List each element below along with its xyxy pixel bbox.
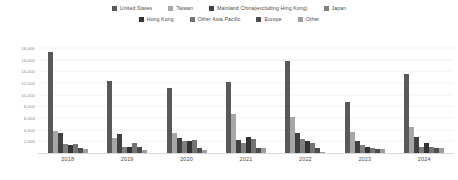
x-axis-tick-label: 2023 [358, 156, 371, 162]
y-axis-tick-label: 6,000 [24, 116, 35, 121]
bar-chart: United StatesTaiwanMainland China(exclud… [0, 0, 458, 180]
bar-group [226, 48, 266, 153]
legend-swatch-icon [256, 17, 261, 22]
legend-item[interactable]: Europe [256, 17, 281, 22]
bar-group [345, 48, 385, 153]
chart-legend: United StatesTaiwanMainland China(exclud… [0, 6, 458, 28]
legend-item[interactable]: Other [298, 17, 319, 22]
legend-item[interactable]: Hong Kong [139, 17, 174, 22]
legend-swatch-icon [324, 6, 329, 11]
x-axis-tick-label: 2022 [299, 156, 312, 162]
x-axis-tick-label: 2020 [180, 156, 193, 162]
legend-swatch-icon [298, 17, 303, 22]
bars-area [38, 48, 454, 153]
x-axis-tick-label: 2021 [240, 156, 253, 162]
bar[interactable] [202, 150, 207, 153]
bar[interactable] [142, 150, 147, 154]
y-axis-tick-label: 14,000 [21, 69, 35, 74]
legend-swatch-icon [112, 6, 117, 11]
legend-item[interactable]: Japan [324, 6, 347, 11]
bar[interactable] [83, 149, 88, 153]
y-axis-tick-label: 16,000 [21, 57, 35, 62]
legend-row-top: United StatesTaiwanMainland China(exclud… [0, 6, 458, 11]
legend-swatch-icon [139, 17, 144, 22]
y-axis-tick-label: 18,000 [21, 46, 35, 51]
legend-swatch-icon [209, 6, 214, 11]
legend-label: Other [306, 17, 319, 22]
bar[interactable] [320, 152, 325, 153]
legend-row-bottom: Hong KongOther Asia PacificEuropeOther [0, 17, 458, 22]
x-axis-tick-label: 2018 [61, 156, 74, 162]
x-axis-tick-label: 2019 [121, 156, 134, 162]
bar-group [107, 48, 147, 153]
legend-label: Mainland China(excluding Hing Kong) [217, 6, 308, 11]
bar-group [285, 48, 325, 153]
x-axis: 2018201920202021202220232024 [38, 156, 454, 162]
y-axis-tick-label: 12,000 [21, 81, 35, 86]
y-axis: 2,0004,0006,0008,00010,00012,00014,00016… [0, 48, 38, 153]
legend-item[interactable]: Taiwan [168, 6, 193, 11]
bar-group [167, 48, 207, 153]
legend-label: Japan [332, 6, 347, 11]
legend-label: Hong Kong [147, 17, 174, 22]
bar[interactable] [261, 148, 266, 153]
plot-area: 2,0004,0006,0008,00010,00012,00014,00016… [0, 48, 458, 180]
legend-item[interactable]: Other Asia Pacific [190, 17, 241, 22]
bar-group [404, 48, 444, 153]
legend-label: Europe [264, 17, 281, 22]
x-axis-tick-label: 2024 [418, 156, 431, 162]
y-axis-tick-label: 10,000 [21, 92, 35, 97]
legend-label: Other Asia Pacific [198, 17, 241, 22]
bar[interactable] [380, 149, 385, 153]
axis-baseline [38, 153, 454, 154]
legend-swatch-icon [168, 6, 173, 11]
legend-label: Taiwan [176, 6, 193, 11]
legend-swatch-icon [190, 17, 195, 22]
bar-group [48, 48, 88, 153]
y-axis-tick-label: 8,000 [24, 104, 35, 109]
bar[interactable] [439, 148, 444, 153]
legend-label: United States [120, 6, 152, 11]
legend-item[interactable]: Mainland China(excluding Hing Kong) [209, 6, 308, 11]
y-axis-tick-label: 2,000 [24, 139, 35, 144]
y-axis-tick-label: 4,000 [24, 127, 35, 132]
legend-item[interactable]: United States [112, 6, 152, 11]
